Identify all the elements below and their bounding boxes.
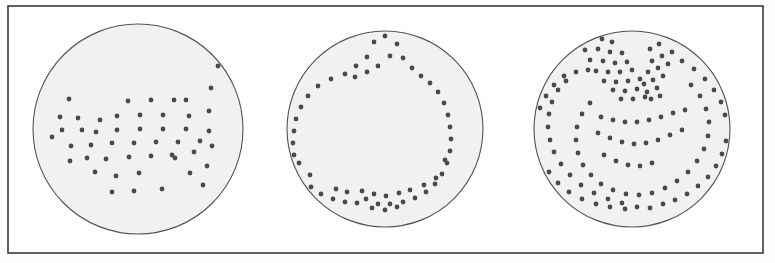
dot bbox=[161, 127, 166, 132]
dot bbox=[683, 108, 688, 113]
dot bbox=[649, 97, 654, 102]
dot bbox=[93, 170, 98, 175]
dot bbox=[638, 164, 643, 169]
dot bbox=[702, 147, 707, 152]
dot bbox=[626, 79, 631, 84]
dot bbox=[365, 55, 370, 60]
dot bbox=[559, 162, 564, 167]
dot bbox=[564, 79, 569, 84]
dot bbox=[401, 200, 406, 205]
dot bbox=[574, 138, 579, 143]
dot bbox=[173, 156, 178, 161]
dot bbox=[620, 51, 625, 56]
dot bbox=[655, 86, 660, 91]
dot bbox=[647, 118, 652, 123]
dot bbox=[568, 173, 573, 178]
dot bbox=[207, 109, 212, 114]
dot bbox=[724, 139, 729, 144]
dot bbox=[646, 70, 651, 75]
dot bbox=[184, 127, 189, 132]
dot bbox=[154, 140, 159, 145]
dot bbox=[620, 201, 625, 206]
dot bbox=[623, 89, 628, 94]
dot bbox=[149, 98, 154, 103]
dot bbox=[370, 206, 375, 211]
dot bbox=[707, 120, 712, 125]
dot bbox=[126, 99, 131, 104]
dot bbox=[552, 83, 557, 88]
dot bbox=[635, 205, 640, 210]
dot bbox=[397, 191, 402, 196]
dot bbox=[422, 183, 427, 188]
dot bbox=[650, 191, 655, 196]
dot bbox=[619, 97, 624, 102]
dot bbox=[184, 98, 189, 103]
dot bbox=[630, 68, 635, 73]
dot bbox=[446, 113, 451, 118]
dot bbox=[606, 197, 611, 202]
dot bbox=[308, 173, 313, 178]
dot bbox=[138, 113, 143, 118]
dot bbox=[343, 200, 348, 205]
dot bbox=[388, 54, 393, 59]
dot bbox=[94, 130, 99, 135]
dot bbox=[449, 137, 454, 142]
dot bbox=[712, 88, 717, 93]
dot bbox=[149, 154, 154, 159]
dot bbox=[658, 94, 663, 99]
dot bbox=[696, 184, 701, 189]
dot bbox=[372, 40, 377, 45]
dot bbox=[372, 192, 377, 197]
dot bbox=[292, 153, 297, 158]
dot bbox=[611, 188, 616, 193]
dot bbox=[632, 142, 637, 147]
dot bbox=[550, 100, 555, 105]
dot bbox=[618, 70, 623, 75]
dot bbox=[306, 94, 311, 99]
dot bbox=[115, 114, 120, 119]
dot bbox=[643, 95, 648, 100]
dot bbox=[666, 62, 671, 67]
dot bbox=[650, 161, 655, 166]
dot bbox=[440, 172, 445, 177]
dot bbox=[413, 196, 418, 201]
dot bbox=[209, 86, 214, 91]
dot bbox=[115, 128, 120, 133]
dot bbox=[562, 74, 567, 79]
dot bbox=[172, 98, 177, 103]
dot bbox=[650, 59, 655, 64]
dot bbox=[433, 182, 438, 187]
disc-3 bbox=[534, 31, 730, 227]
dot bbox=[376, 64, 381, 69]
dot bbox=[608, 205, 613, 210]
dot bbox=[596, 47, 601, 52]
dot bbox=[608, 136, 613, 141]
dot bbox=[160, 187, 165, 192]
dot bbox=[574, 70, 579, 75]
dot bbox=[408, 188, 413, 193]
dot bbox=[660, 54, 665, 59]
dot bbox=[161, 113, 166, 118]
dot bbox=[588, 101, 593, 106]
dot bbox=[695, 159, 700, 164]
dot-pattern-figure bbox=[0, 0, 775, 263]
dot bbox=[198, 139, 203, 144]
dot bbox=[434, 176, 439, 181]
dot bbox=[104, 157, 109, 162]
dot bbox=[210, 144, 215, 149]
dot bbox=[365, 70, 370, 75]
dot bbox=[69, 144, 74, 149]
dot bbox=[547, 112, 552, 117]
dot bbox=[580, 112, 585, 117]
dot bbox=[201, 183, 206, 188]
dot bbox=[657, 42, 662, 47]
dot bbox=[581, 163, 586, 168]
dot bbox=[67, 97, 72, 102]
dot bbox=[548, 138, 553, 143]
dot bbox=[623, 207, 628, 212]
dot bbox=[588, 58, 593, 63]
dot bbox=[592, 191, 597, 196]
dot bbox=[98, 118, 103, 123]
dot bbox=[637, 193, 642, 198]
dot bbox=[719, 100, 724, 105]
